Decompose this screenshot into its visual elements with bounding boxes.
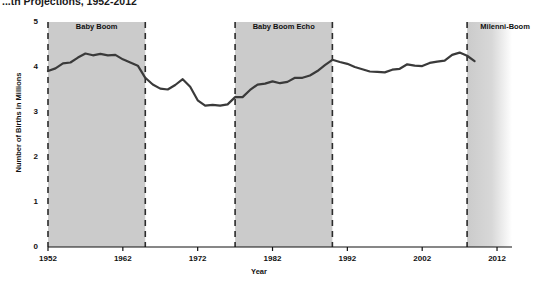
x-tick-label: 1952 xyxy=(28,254,68,263)
y-tick-label: 4 xyxy=(18,62,38,71)
x-tick-label: 2012 xyxy=(477,254,517,263)
era-band xyxy=(48,22,145,247)
era-band-label: Milenni-Boom xyxy=(445,22,535,31)
y-tick-label: 3 xyxy=(18,107,38,116)
axes-group xyxy=(48,247,512,251)
era-band xyxy=(235,22,332,247)
era-band xyxy=(467,22,512,247)
era-band-label: Baby Boom Echo xyxy=(224,22,344,31)
x-tick-label: 1992 xyxy=(327,254,367,263)
y-tick-label: 0 xyxy=(18,242,38,251)
x-tick-label: 1972 xyxy=(178,254,218,263)
y-tick-label: 1 xyxy=(18,197,38,206)
y-tick-label: 2 xyxy=(18,152,38,161)
x-tick-label: 1962 xyxy=(103,254,143,263)
x-tick-label: 1982 xyxy=(253,254,293,263)
x-tick-label: 2002 xyxy=(402,254,442,263)
y-tick-label: 5 xyxy=(18,17,38,26)
era-band-label: Baby Boom xyxy=(37,22,157,31)
